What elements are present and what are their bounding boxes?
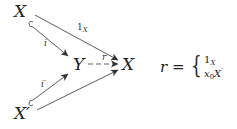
node-y: Y xyxy=(73,56,84,73)
case-2-prime: ′ xyxy=(221,67,223,75)
label-i-text: i xyxy=(44,38,47,48)
label-i-prime-text: i′ xyxy=(41,79,46,89)
label-i: i xyxy=(44,39,47,48)
case-1-sub: X xyxy=(210,59,215,67)
node-x-right: X xyxy=(122,56,134,73)
formula-lhs: r = xyxy=(160,58,185,76)
node-x-prime: X′ xyxy=(14,105,30,122)
formula-case-2: x0X′ xyxy=(204,67,223,81)
label-identity: 1X xyxy=(77,23,88,34)
label-r: r xyxy=(102,53,106,62)
node-x-top-label: X xyxy=(14,1,26,21)
node-y-label: Y xyxy=(73,54,84,74)
node-x-prime-mark: ′ xyxy=(26,103,30,123)
arrow-inclusion-i-prime xyxy=(29,74,68,106)
label-r-text: r xyxy=(102,52,106,62)
node-x-right-label: X xyxy=(122,54,134,74)
arrow-bottom-to-right xyxy=(37,70,118,110)
node-x-prime-label: X xyxy=(14,103,26,123)
label-identity-sub: X xyxy=(83,26,88,34)
arrow-inclusion-i xyxy=(29,21,68,56)
formula-case-1: 1X xyxy=(204,54,215,67)
node-x-top: X xyxy=(14,3,26,20)
formula-brace: { xyxy=(191,53,202,77)
label-i-prime: i′ xyxy=(41,80,46,89)
